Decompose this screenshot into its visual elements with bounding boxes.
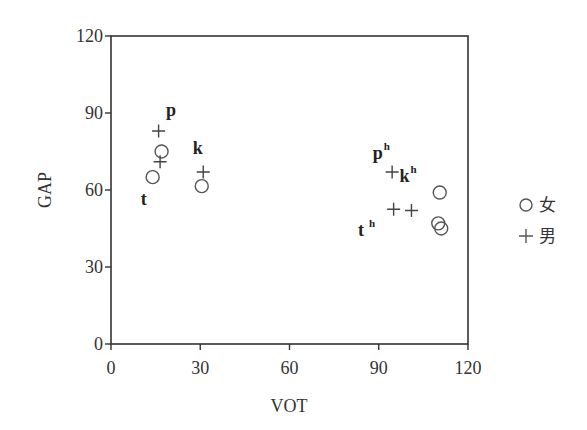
circle-marker-icon <box>195 180 208 193</box>
plot-border <box>111 36 468 344</box>
plus-marker-icon <box>152 124 165 137</box>
plus-marker-icon <box>386 166 399 179</box>
legend-item-male: 男 <box>519 226 556 246</box>
x-axis-title: VOT <box>271 396 308 416</box>
point-label-superscript: h <box>411 163 417 175</box>
y-tick-label: 120 <box>76 26 103 46</box>
point-label-superscript: h <box>384 140 390 152</box>
legend-label-male: 男 <box>539 226 556 246</box>
plot-frame <box>111 36 468 344</box>
circle-marker-icon <box>433 186 446 199</box>
point-annotations: ptkphkhth <box>141 100 417 241</box>
point-label: t <box>358 220 364 240</box>
plus-marker-icon <box>519 229 533 243</box>
legend: 女 男 <box>519 195 556 246</box>
legend-item-female: 女 <box>520 195 556 215</box>
y-tick-label: 0 <box>94 334 103 354</box>
y-axis-title: GAP <box>35 172 55 208</box>
point-label: t <box>141 189 147 209</box>
x-tick-label: 0 <box>107 358 116 378</box>
x-tick-label: 90 <box>370 358 388 378</box>
point-label: k <box>193 138 203 158</box>
y-tick-label: 60 <box>85 180 103 200</box>
circle-marker-icon <box>520 199 532 211</box>
plus-marker-icon <box>197 166 210 179</box>
point-label: p <box>166 100 176 120</box>
axis-ticks: 03060901200306090120 <box>76 26 482 378</box>
point-label-superscript: h <box>369 217 375 229</box>
x-tick-label: 120 <box>455 358 482 378</box>
legend-label-female: 女 <box>539 195 556 215</box>
plus-marker-icon <box>387 203 400 216</box>
plus-marker-icon <box>405 204 418 217</box>
point-label: k <box>400 166 410 186</box>
x-tick-label: 30 <box>191 358 209 378</box>
y-tick-label: 30 <box>85 257 103 277</box>
point-label: p <box>373 143 383 163</box>
circle-marker-icon <box>155 145 168 158</box>
scatter-chart: 03060901200306090120 ptkphkhth VOT GAP 女… <box>0 0 587 430</box>
y-tick-label: 90 <box>85 103 103 123</box>
circle-marker-icon <box>146 171 159 184</box>
x-tick-label: 60 <box>281 358 299 378</box>
